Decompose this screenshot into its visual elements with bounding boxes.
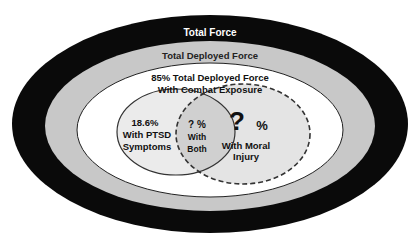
deployed-force-label: Total Deployed Force xyxy=(162,50,258,61)
moral-injury-percent: % xyxy=(256,118,268,133)
ptsd-value: 18.6% xyxy=(132,117,159,128)
moral-injury-label-line2: Injury xyxy=(233,151,260,162)
ptsd-label-line2: Symptoms xyxy=(123,141,172,152)
both-value: ? % xyxy=(188,119,206,130)
combat-exposure-label-line2: With Combat Exposure xyxy=(158,84,262,95)
total-force-label: Total Force xyxy=(183,27,237,38)
moral-injury-question: ? xyxy=(229,106,245,136)
moral-injury-label-line1: With Moral xyxy=(222,140,270,151)
both-label-line1: With xyxy=(188,132,206,142)
ptsd-label-line1: With PTSD xyxy=(123,129,172,140)
combat-exposure-label-line1: 85% Total Deployed Force xyxy=(151,72,269,83)
both-label-line2: Both xyxy=(187,144,206,154)
nested-venn-diagram: Total Force Total Deployed Force 85% Tot… xyxy=(0,0,419,251)
